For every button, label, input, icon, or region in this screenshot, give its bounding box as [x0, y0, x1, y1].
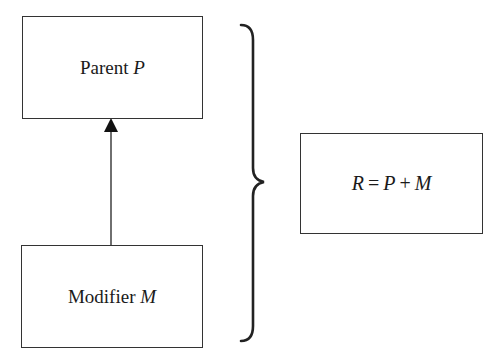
result-box: R = P + M: [300, 133, 483, 234]
result-p: P: [383, 172, 395, 195]
modifier-symbol: M: [140, 286, 156, 308]
parent-label: Parent: [80, 57, 129, 79]
result-m: M: [415, 172, 432, 195]
arrowhead-icon: [104, 118, 118, 132]
modifier-box: Modifier M: [21, 245, 203, 348]
curly-brace-icon: [241, 25, 264, 341]
parent-symbol: P: [133, 57, 145, 79]
plus-sign: +: [399, 172, 410, 195]
result-lhs: R: [352, 172, 364, 195]
equals-sign: =: [368, 172, 379, 195]
parent-box: Parent P: [22, 16, 203, 119]
modifier-label: Modifier: [68, 286, 136, 308]
